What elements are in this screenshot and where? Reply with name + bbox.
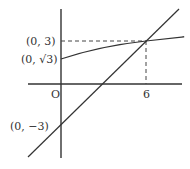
label-yneg3: (0, −3) [10,120,49,133]
straight-line [28,9,179,157]
label-ysqrt3: (0, √3) [21,53,58,66]
curve [61,37,184,59]
graph-diagram: (0, 3) (0, √3) (0, −3) O 6 [0,0,190,169]
label-origin: O [51,88,60,101]
label-y3: (0, 3) [26,35,56,48]
label-x6: 6 [143,88,150,101]
